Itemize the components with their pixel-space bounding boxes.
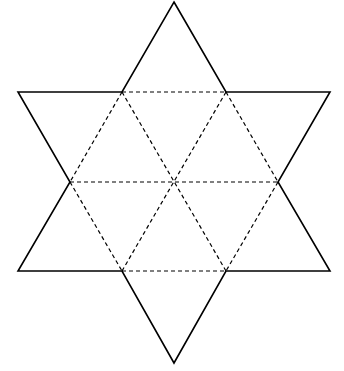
hexagram-diagram <box>0 0 344 371</box>
fold-lines <box>70 92 278 271</box>
fold-line-right-upper <box>226 92 278 182</box>
fold-line-left-lower <box>70 182 122 271</box>
fold-line-right-lower <box>226 182 278 271</box>
fold-line-left-upper <box>70 92 122 182</box>
star-outline <box>18 2 330 363</box>
